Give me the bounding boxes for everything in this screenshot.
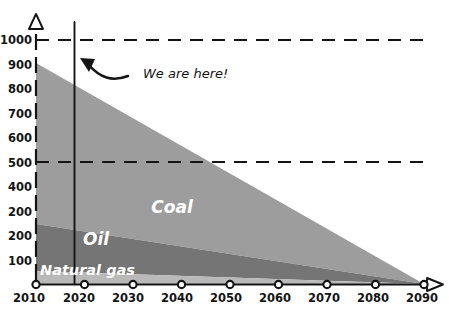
annotation-label: We are here! <box>143 66 228 81</box>
x-tick-labels: 2010 2020 2030 2040 2050 2060 2070 2080 … <box>13 291 438 305</box>
x-tick-marker <box>420 281 427 288</box>
up-arrow-icon <box>29 14 43 29</box>
x-tick-label-2050: 2050 <box>210 291 242 305</box>
x-tick-label-2020: 2020 <box>63 291 95 305</box>
series-label-natural-gas: Natural gas <box>40 262 135 278</box>
fossil-fuel-depletion-chart: 1000 900 800 700 600 500 400 200 200 100… <box>0 0 449 316</box>
y-tick-label-1000: 1000 <box>0 33 32 47</box>
x-tick-marker <box>178 281 185 288</box>
annotation-arrow <box>88 64 128 79</box>
x-tick-marker <box>32 281 39 288</box>
y-tick-label-900: 900 <box>8 58 32 72</box>
x-tick-label-2080: 2080 <box>357 291 389 305</box>
y-tick-labels: 1000 900 800 700 600 500 400 200 200 100 <box>0 33 32 268</box>
y-tick-label-400: 400 <box>8 180 32 194</box>
x-tick-label-2070: 2070 <box>308 291 340 305</box>
y-tick-label-700: 700 <box>8 107 32 121</box>
series-label-oil: Oil <box>83 229 110 249</box>
x-tick-label-2040: 2040 <box>161 291 193 305</box>
y-tick-label-500: 500 <box>8 156 32 170</box>
series-label-coal: Coal <box>151 197 194 217</box>
x-tick-label-2010: 2010 <box>13 291 45 305</box>
y-tick-label-600: 600 <box>8 131 32 145</box>
x-tick-marker <box>226 281 233 288</box>
x-tick-marker <box>81 281 88 288</box>
y-tick-label-200: 200 <box>8 229 32 243</box>
x-tick-label-2090: 2090 <box>406 291 438 305</box>
chart-canvas: 1000 900 800 700 600 500 400 200 200 100… <box>0 0 449 316</box>
x-tick-marker <box>323 281 330 288</box>
x-tick-marker <box>275 281 282 288</box>
chart-areas <box>36 63 424 284</box>
x-tick-marker <box>372 281 379 288</box>
y-tick-label-300: 200 <box>8 205 32 219</box>
y-tick-label-800: 800 <box>8 82 32 96</box>
y-tick-label-100: 100 <box>8 254 32 268</box>
x-tick-label-2030: 2030 <box>112 291 144 305</box>
right-arrow-icon <box>427 278 443 291</box>
x-tick-marker <box>129 281 136 288</box>
x-tick-label-2060: 2060 <box>259 291 291 305</box>
annotation-we-are-here: We are here! <box>80 58 228 81</box>
